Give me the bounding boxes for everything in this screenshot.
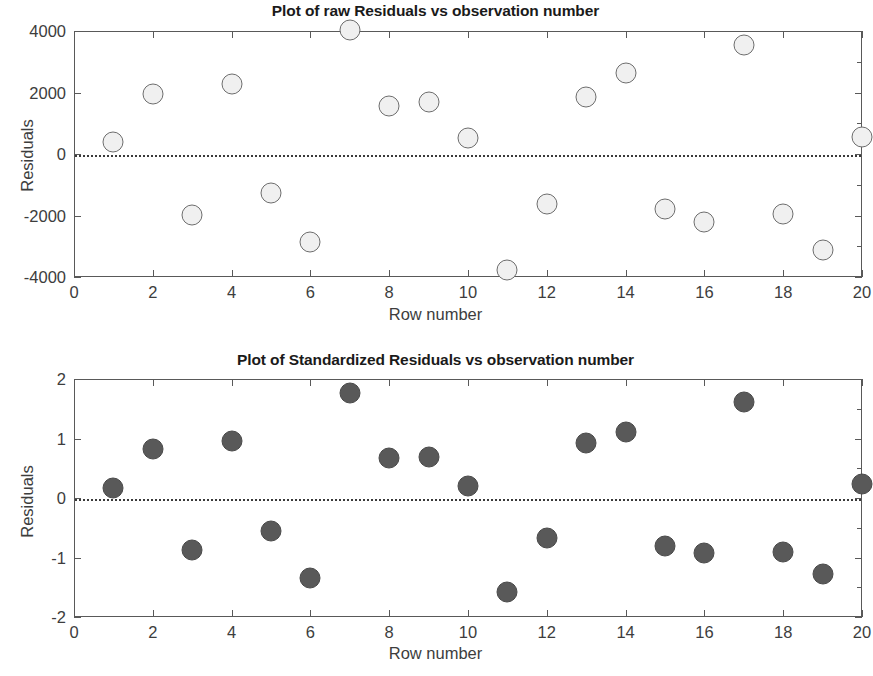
x-tick [626, 270, 627, 277]
data-point-marker [339, 383, 360, 404]
x-tick [74, 270, 75, 277]
x-tick [783, 379, 784, 386]
x-tick-label: 8 [385, 623, 394, 642]
x-tick-label: 14 [616, 283, 634, 302]
y-tick [74, 617, 81, 618]
y-minor-tick [857, 587, 862, 588]
x-tick [783, 31, 784, 38]
y-tick-label: -2 [2, 608, 66, 627]
plot-area-raw-residuals [74, 31, 862, 277]
y-minor-tick [857, 185, 862, 186]
data-point-marker [261, 183, 282, 204]
y-tick [855, 439, 862, 440]
x-tick-label: 0 [69, 283, 78, 302]
data-point-marker [497, 259, 518, 280]
data-point-marker [103, 131, 124, 152]
zero-reference-line-standardized [75, 499, 861, 501]
x-tick [310, 270, 311, 277]
x-tick-label: 16 [695, 283, 713, 302]
x-tick [389, 610, 390, 617]
zero-reference-line-raw [75, 155, 861, 157]
data-point-marker [221, 74, 242, 95]
x-tick [626, 31, 627, 38]
x-tick [468, 379, 469, 386]
x-tick-label: 6 [306, 623, 315, 642]
x-tick [704, 270, 705, 277]
x-tick [862, 31, 863, 38]
x-tick-label: 2 [148, 283, 157, 302]
data-point-marker [379, 96, 400, 117]
y-tick [74, 154, 81, 155]
x-tick-label: 0 [69, 623, 78, 642]
data-point-marker [812, 239, 833, 260]
x-tick [389, 31, 390, 38]
y-tick [74, 31, 81, 32]
x-tick-label: 12 [538, 623, 556, 642]
y-tick [855, 617, 862, 618]
x-tick-label: 6 [306, 283, 315, 302]
y-minor-tick [857, 409, 862, 410]
x-tick [74, 610, 75, 617]
x-axis-title-raw: Row number [0, 305, 871, 324]
x-tick [232, 610, 233, 617]
y-tick [855, 379, 862, 380]
chart-title-standardized-residuals: Plot of Standardized Residuals vs observ… [0, 351, 871, 369]
y-tick [855, 498, 862, 499]
x-tick-label: 8 [385, 283, 394, 302]
data-point-marker [300, 231, 321, 252]
x-tick-label: 4 [227, 283, 236, 302]
x-tick [232, 379, 233, 386]
y-tick [74, 277, 81, 278]
data-point-marker [733, 391, 754, 412]
x-tick-label: 18 [774, 623, 792, 642]
data-point-marker [852, 126, 873, 147]
y-tick-label: 2 [2, 370, 66, 389]
x-tick [389, 379, 390, 386]
x-tick [547, 31, 548, 38]
x-tick [74, 31, 75, 38]
x-tick [783, 270, 784, 277]
x-tick [232, 31, 233, 38]
data-point-marker [182, 204, 203, 225]
data-point-marker [339, 20, 360, 41]
data-point-marker [733, 34, 754, 55]
x-tick [862, 270, 863, 277]
data-point-marker [142, 84, 163, 105]
y-tick [855, 216, 862, 217]
x-tick-label: 4 [227, 623, 236, 642]
data-point-marker [142, 439, 163, 460]
y-tick-label: 4000 [2, 22, 66, 41]
y-tick [855, 93, 862, 94]
data-point-marker [418, 446, 439, 467]
data-point-marker [615, 63, 636, 84]
data-point-marker [655, 198, 676, 219]
x-tick [310, 379, 311, 386]
x-tick [783, 610, 784, 617]
data-point-marker [182, 540, 203, 561]
x-tick [468, 31, 469, 38]
x-tick [153, 379, 154, 386]
y-tick [855, 31, 862, 32]
x-tick [468, 270, 469, 277]
y-minor-tick [857, 528, 862, 529]
x-tick-label: 14 [616, 623, 634, 642]
x-tick [74, 379, 75, 386]
y-minor-tick [857, 62, 862, 63]
x-tick [862, 610, 863, 617]
y-minor-tick [857, 246, 862, 247]
x-tick [389, 270, 390, 277]
data-point-marker [221, 430, 242, 451]
y-tick [855, 154, 862, 155]
x-tick [468, 610, 469, 617]
x-axis-title-standardized: Row number [0, 644, 871, 663]
data-point-marker [536, 528, 557, 549]
data-point-marker [694, 211, 715, 232]
y-minor-tick [857, 123, 862, 124]
x-tick-label: 16 [695, 623, 713, 642]
y-tick [74, 93, 81, 94]
x-tick [310, 610, 311, 617]
data-point-marker [812, 564, 833, 585]
data-point-marker [458, 128, 479, 149]
data-point-marker [615, 421, 636, 442]
